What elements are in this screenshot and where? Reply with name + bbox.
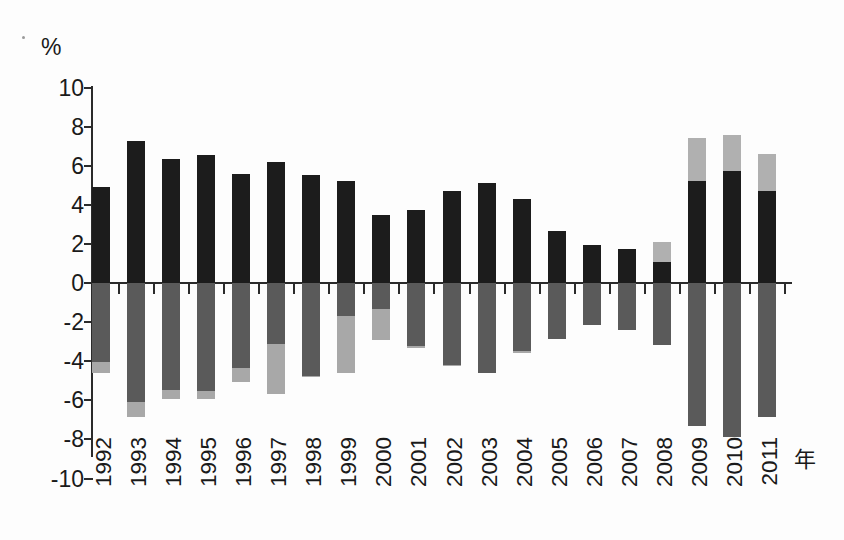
y-axis-ticks: 1086420-2-4-6-8-10 bbox=[0, 0, 84, 540]
bar-segment-positive-dark bbox=[723, 171, 741, 283]
x-tick-mark bbox=[714, 284, 716, 294]
bar-segment-negative-dark bbox=[337, 283, 355, 316]
bar-segment-positive-dark bbox=[162, 159, 180, 283]
x-tick-label: 1992 bbox=[91, 437, 117, 487]
bar-segment-positive-dark bbox=[653, 262, 671, 283]
x-axis-title: 年 bbox=[794, 441, 816, 473]
x-tick-label: 2005 bbox=[547, 437, 573, 487]
x-tick-mark bbox=[679, 284, 681, 294]
x-tick-label: 2001 bbox=[406, 437, 432, 487]
x-tick-label: 2006 bbox=[582, 437, 608, 487]
bar-segment-positive-dark bbox=[688, 181, 706, 283]
bar-segment-positive-dark bbox=[302, 175, 320, 283]
bar-segment-negative-light bbox=[127, 402, 145, 417]
bar-segment-negative-dark bbox=[443, 283, 461, 365]
bar-segment-negative-light bbox=[407, 346, 425, 348]
bar-segment-negative-dark bbox=[548, 283, 566, 339]
bar-segment-positive-dark bbox=[513, 199, 531, 283]
bar-segment-positive-dark bbox=[267, 162, 285, 283]
bar-segment-negative-dark bbox=[513, 283, 531, 351]
y-tick-label: -4 bbox=[64, 348, 84, 375]
y-tick-label: -2 bbox=[64, 309, 84, 336]
x-tick-label: 1995 bbox=[196, 437, 222, 487]
y-tick-label: 6 bbox=[71, 152, 84, 179]
x-tick-mark bbox=[328, 284, 330, 294]
bar-segment-positive-dark bbox=[337, 181, 355, 283]
bar-segment-negative-dark bbox=[127, 283, 145, 402]
x-tick-mark bbox=[644, 284, 646, 294]
x-tick-label: 2007 bbox=[617, 437, 643, 487]
bar-segment-negative-light bbox=[92, 362, 110, 373]
bar-segment-negative-light bbox=[513, 351, 531, 353]
x-tick-mark bbox=[118, 284, 120, 294]
x-tick-label: 1994 bbox=[161, 437, 187, 487]
bar-segment-negative-light bbox=[372, 309, 390, 339]
bar-segment-negative-dark bbox=[478, 283, 496, 373]
x-tick-label: 2004 bbox=[512, 437, 538, 487]
y-tick-label: 0 bbox=[71, 270, 84, 297]
bar-segment-positive-dark bbox=[548, 231, 566, 283]
bar-segment-negative-dark bbox=[232, 283, 250, 368]
x-tick-label: 2010 bbox=[722, 437, 748, 487]
x-tick-mark bbox=[609, 284, 611, 294]
x-tick-mark bbox=[469, 284, 471, 294]
x-tick-label: 1996 bbox=[231, 437, 257, 487]
bar-segment-negative-light bbox=[443, 365, 461, 366]
x-tick-label: 2008 bbox=[652, 437, 678, 487]
bar-segment-negative-dark bbox=[92, 283, 110, 362]
bar-segment-negative-dark bbox=[162, 283, 180, 390]
bar-segment-negative-dark bbox=[302, 283, 320, 376]
bar-segment-negative-dark bbox=[197, 283, 215, 391]
x-tick-mark bbox=[293, 284, 295, 294]
x-tick-mark bbox=[749, 284, 751, 294]
bar-segment-negative-light bbox=[337, 316, 355, 373]
x-tick-mark bbox=[574, 284, 576, 294]
x-tick-mark bbox=[398, 284, 400, 294]
x-tick-label: 2011 bbox=[757, 437, 783, 485]
x-tick-label: 1998 bbox=[301, 437, 327, 487]
bar-segment-negative-dark bbox=[758, 283, 776, 417]
bar-segment-negative-light bbox=[302, 376, 320, 377]
x-tick-mark bbox=[188, 284, 190, 294]
y-tick-label: -8 bbox=[64, 426, 84, 453]
bar-segment-negative-light bbox=[162, 390, 180, 400]
bar-segment-negative-light bbox=[232, 368, 250, 382]
bar-segment-positive-light bbox=[688, 138, 706, 181]
x-tick-mark bbox=[363, 284, 365, 294]
bar-segment-negative-dark bbox=[583, 283, 601, 325]
x-tick-label: 1993 bbox=[126, 437, 152, 487]
chart-root: % 1086420-2-4-6-8-10 1992199319941995199… bbox=[0, 0, 844, 540]
bar-segment-positive-dark bbox=[407, 210, 425, 283]
x-tick-mark bbox=[433, 284, 435, 294]
bar-segment-positive-light bbox=[653, 242, 671, 263]
x-tick-mark bbox=[784, 284, 786, 294]
zero-baseline bbox=[91, 282, 792, 284]
bar-segment-negative-light bbox=[197, 391, 215, 400]
x-tick-mark bbox=[258, 284, 260, 294]
bar-segment-positive-dark bbox=[92, 187, 110, 283]
x-tick-label: 2000 bbox=[371, 437, 397, 487]
bar-segment-positive-dark bbox=[443, 191, 461, 283]
bar-segment-positive-light bbox=[758, 154, 776, 191]
bar-segment-negative-dark bbox=[653, 283, 671, 345]
y-tick-label: -10 bbox=[51, 465, 84, 492]
bar-segment-positive-dark bbox=[232, 174, 250, 283]
x-tick-label: 2002 bbox=[442, 437, 468, 487]
x-tick-mark bbox=[153, 284, 155, 294]
bar-segment-negative-dark bbox=[407, 283, 425, 346]
x-tick-mark bbox=[504, 284, 506, 294]
bar-segment-positive-dark bbox=[372, 215, 390, 283]
bar-segment-negative-dark bbox=[688, 283, 706, 426]
x-tick-label: 2003 bbox=[477, 437, 503, 487]
x-tick-label: 1999 bbox=[336, 437, 362, 487]
bar-segment-positive-dark bbox=[583, 245, 601, 283]
bar-segment-positive-dark bbox=[758, 191, 776, 283]
bar-segment-negative-dark bbox=[267, 283, 285, 344]
x-tick-label: 2009 bbox=[687, 437, 713, 487]
bar-segment-positive-dark bbox=[618, 249, 636, 283]
bar-segment-negative-light bbox=[267, 344, 285, 395]
y-tick-label: 10 bbox=[58, 74, 84, 101]
y-tick-label: -6 bbox=[64, 387, 84, 414]
bar-segment-positive-dark bbox=[127, 141, 145, 283]
y-tick-label: 4 bbox=[71, 191, 84, 218]
